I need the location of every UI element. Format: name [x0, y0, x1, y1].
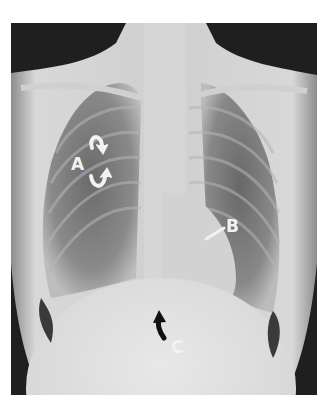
xray-image: A B C [11, 23, 317, 395]
annotation-label-c: C [171, 339, 183, 356]
chest-radiograph [11, 23, 317, 395]
annotation-label-b: B [226, 218, 239, 235]
annotation-label-a: A [71, 156, 84, 173]
